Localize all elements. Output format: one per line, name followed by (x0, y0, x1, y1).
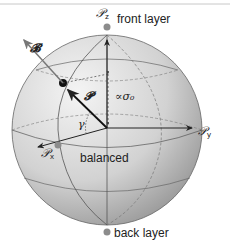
sigma-label: ∝σ₀ (115, 90, 135, 103)
front-layer-label: front layer (117, 12, 170, 26)
py-sub: y (207, 130, 211, 139)
px-sub: x (50, 152, 54, 161)
px-dot (55, 142, 62, 149)
pole-dot-front (104, 24, 111, 31)
balanced-label: balanced (80, 151, 129, 165)
pole-dot-back (104, 229, 111, 236)
pz-sub: z (105, 12, 109, 21)
b-vector-label: 𝓑 (29, 41, 43, 55)
sphere-diagram: 𝒫 z front layer 𝓑 𝓟 ∝σ₀ γ 𝒫 y 𝒫 x balanc… (0, 0, 230, 245)
gamma-label: γ (78, 118, 85, 131)
back-layer-label: back layer (114, 226, 169, 240)
